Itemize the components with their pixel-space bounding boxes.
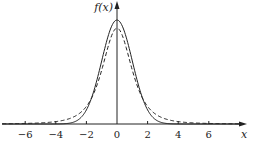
- x-axis-arrow-icon: [239, 122, 247, 127]
- tick-label: 2: [144, 129, 150, 140]
- normal-curve: [2, 20, 239, 124]
- tick-label: 4: [175, 129, 181, 140]
- curves: [2, 20, 239, 124]
- y-axis-label: f(x): [93, 1, 113, 14]
- y-axis-arrow-icon: [115, 1, 120, 9]
- tick-label: 0: [114, 129, 120, 140]
- t-distribution-curve: [2, 28, 239, 124]
- x-axis-label: x: [241, 128, 248, 141]
- tick-label: −4: [48, 129, 63, 140]
- density-chart: −6−4−20246 f(x) x: [0, 0, 253, 146]
- tick-label: 6: [206, 129, 212, 140]
- tick-label: −2: [79, 129, 94, 140]
- tick-label: −6: [18, 129, 33, 140]
